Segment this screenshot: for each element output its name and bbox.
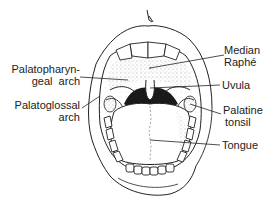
left-palatine-tonsil (104, 96, 116, 112)
label-tongue: Tongue (222, 139, 258, 151)
lower-lip-inner (118, 178, 178, 187)
label-median-raphe-line2: Raphé (224, 56, 260, 68)
label-median-raphe-line1: Median (224, 44, 260, 56)
label-uvula-line1: Uvula (222, 79, 250, 91)
label-palatine-tonsil-line1: Palatine (223, 104, 263, 116)
mouth-anatomy-diagram: Median Raphé Uvula Palatine tonsil Tongu… (0, 0, 273, 209)
label-uvula: Uvula (222, 79, 250, 91)
upper-teeth (116, 42, 180, 60)
label-palatine-tonsil-line2: tonsil (223, 116, 263, 128)
label-palatoglossal-arch-line1: Palatoglossal (2, 99, 80, 111)
label-palatopharyngeal-arch-line1: Palatopharyn- (2, 63, 80, 75)
uvula (146, 80, 155, 100)
leader-palatoglossal-arch (82, 96, 100, 108)
label-palatoglossal-arch: Palatoglossal arch (2, 99, 80, 123)
label-palatine-tonsil: Palatine tonsil (223, 104, 263, 128)
label-palatoglossal-arch-line2: arch (2, 111, 80, 123)
philtrum-mark (147, 10, 153, 22)
label-palatopharyngeal-arch-line2: geal arch (2, 75, 80, 87)
label-median-raphe: Median Raphé (224, 44, 260, 68)
label-tongue-line1: Tongue (222, 139, 258, 151)
label-palatopharyngeal-arch: Palatopharyn- geal arch (2, 63, 80, 87)
